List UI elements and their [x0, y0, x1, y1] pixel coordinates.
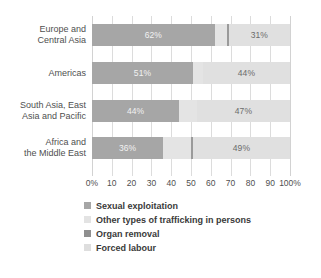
bar-segment-forced: [163, 137, 191, 159]
stacked-bar-chart: Europe andCentral Asia Americas South As…: [0, 0, 321, 278]
bar-segment-other: 44%: [203, 62, 290, 84]
bar-row: 51%44%: [92, 62, 290, 84]
bar-segment-forced: [179, 100, 197, 122]
x-tick-label-0: 0%: [86, 178, 98, 188]
chart-legend: Sexual exploitationOther types of traffi…: [84, 199, 251, 255]
legend-item[interactable]: Forced labour: [84, 241, 251, 254]
x-tick-label-60: 60: [206, 178, 215, 188]
category-label-africa-middle-east: Africa andthe Middle East: [0, 137, 86, 159]
legend-swatch-icon: [84, 244, 91, 251]
legend-label: Forced labour: [96, 243, 156, 253]
bar-row: 36%49%: [92, 137, 290, 159]
bar-segment-other: 31%: [229, 24, 290, 46]
x-axis: 0%102030405060708090100%: [92, 178, 290, 192]
category-label-americas: Americas: [0, 68, 86, 79]
x-tick-label-80: 80: [246, 178, 255, 188]
x-tick-label-40: 40: [166, 178, 175, 188]
x-tick-label-20: 20: [127, 178, 136, 188]
bar-segment-sexual: 51%: [92, 62, 193, 84]
x-tick-label-10: 10: [107, 178, 116, 188]
legend-label: Sexual exploitation: [96, 201, 178, 211]
legend-item[interactable]: Sexual exploitation: [84, 199, 251, 212]
bar-segment-forced: [193, 62, 203, 84]
legend-swatch-icon: [84, 216, 91, 223]
bar-row: 44%47%: [92, 100, 290, 122]
x-tick-label-50: 50: [186, 178, 195, 188]
legend-swatch-icon: [84, 230, 91, 237]
legend-item[interactable]: Other types of trafficking in persons: [84, 213, 251, 226]
legend-swatch-icon: [84, 202, 91, 209]
category-label-south-asia-east-asia-pacific: South Asia, EastAsia and Pacific: [0, 100, 86, 122]
legend-item[interactable]: Organ removal: [84, 227, 251, 240]
x-tick-label-90: 90: [265, 178, 274, 188]
x-tick-label-30: 30: [147, 178, 156, 188]
bar-segment-forced: [215, 24, 227, 46]
legend-label: Organ removal: [96, 229, 160, 239]
bar-segment-sexual: 36%: [92, 137, 163, 159]
x-tick-label-100: 100%: [279, 178, 301, 188]
legend-label: Other types of trafficking in persons: [96, 215, 251, 225]
gridline-100: [290, 16, 291, 176]
bar-segment-other: 49%: [193, 137, 290, 159]
plot-area: 62%31%51%44%44%47%36%49%: [92, 16, 290, 176]
bar-segment-other: 47%: [197, 100, 290, 122]
category-label-europe-central-asia: Europe andCentral Asia: [0, 24, 86, 46]
bar-segment-sexual: 62%: [92, 24, 215, 46]
x-tick-label-70: 70: [226, 178, 235, 188]
bar-row: 62%31%: [92, 24, 290, 46]
bar-segment-sexual: 44%: [92, 100, 179, 122]
